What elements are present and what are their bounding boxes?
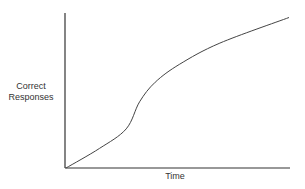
y-axis-label-line-2: Responses (0, 92, 62, 103)
x-axis-label: Time (150, 171, 200, 181)
learning-curve-chart: Correct Responses Time (0, 0, 305, 189)
y-axis-label: Correct Responses (0, 81, 62, 103)
data-line (66, 18, 289, 168)
y-axis-label-line-1: Correct (0, 81, 62, 92)
